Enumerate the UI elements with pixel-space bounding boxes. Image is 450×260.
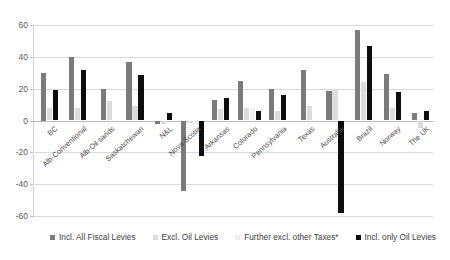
bar [355,30,360,121]
bar [41,73,46,121]
legend-item[interactable]: Further excl. other Taxes* [235,232,338,242]
bar [212,100,217,121]
bar [326,91,331,120]
legend-swatch-icon [50,235,55,240]
plot-area [33,25,433,216]
legend-label: Further excl. other Taxes* [244,232,338,242]
bar [161,121,166,124]
bar [126,62,131,121]
legend-item[interactable]: Incl. only Oil Levies [356,232,436,242]
bar [81,70,86,121]
bar [138,75,143,120]
bar [332,89,337,121]
bar [69,57,74,121]
bar [244,108,249,121]
bar [396,92,401,121]
y-tick-label: 20 [0,85,28,94]
gridline--20 [33,152,433,153]
bar [238,81,243,121]
gridline-20 [33,89,433,90]
bar [361,82,366,120]
gridline-40 [33,57,433,58]
bar [132,106,137,120]
legend-swatch-icon [235,235,240,240]
chart-legend: Incl. All Fiscal LeviesExcl. Oil LeviesF… [38,232,444,242]
bar [412,113,417,121]
bar [307,106,312,120]
bar [107,101,112,120]
tick-mark-60 [30,25,33,26]
y-tick-label: 40 [0,53,28,62]
bar [224,98,229,120]
legend-item[interactable]: Incl. All Fiscal Levies [50,232,136,242]
bar [424,111,429,121]
bar [218,109,223,120]
bar [384,74,389,120]
bar [301,70,306,121]
gridline--40 [33,184,433,185]
bar [181,121,186,191]
bar [281,95,286,120]
legend-swatch-icon [356,235,361,240]
bar [199,121,204,156]
tick-mark-0 [30,121,33,122]
y-tick-label: 0 [0,117,28,126]
bar [269,89,274,121]
gridline--60 [33,216,433,217]
bar [187,121,192,123]
legend-label: Incl. All Fiscal Levies [59,232,136,242]
bar-chart: 6040200-20-40-60 BCAlb-ConventionalAlb-O… [0,0,450,260]
y-tick-label: -20 [0,148,28,157]
bar [101,89,106,121]
tick-mark-20 [30,89,33,90]
legend-swatch-icon [153,235,158,240]
bar [256,111,261,121]
bar [193,121,198,124]
tick-mark--60 [30,216,33,217]
bar [167,113,172,120]
y-tick-label: -60 [0,212,28,221]
legend-label: Incl. only Oil Levies [365,232,436,242]
gridline-60 [33,25,433,26]
gridline-0 [33,121,433,122]
legend-item[interactable]: Excl. Oil Levies [153,232,219,242]
y-tick-label: -40 [0,180,28,189]
bar [53,90,58,120]
tick-mark--40 [30,184,33,185]
bar [390,108,395,121]
bar [250,108,255,121]
bar [155,121,160,124]
y-tick-label: 60 [0,21,28,30]
bar [367,46,372,121]
bar [47,108,52,121]
tick-mark--20 [30,152,33,153]
legend-label: Excl. Oil Levies [162,232,219,242]
tick-mark-40 [30,57,33,58]
bar [75,108,80,121]
bar [275,111,280,121]
